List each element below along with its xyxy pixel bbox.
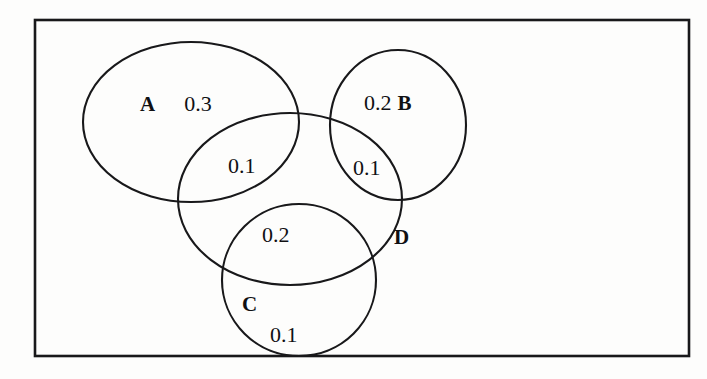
set-c-label: C	[242, 294, 257, 315]
region-value-b-only: 0.2	[364, 92, 392, 114]
region-value-c-only: 0.1	[270, 324, 298, 346]
set-d-label: D	[394, 227, 409, 248]
venn-diagram-canvas	[0, 0, 707, 379]
region-value-b-intersect-d: 0.1	[353, 157, 381, 179]
set-a-label: A	[140, 94, 155, 115]
region-value-a-only: 0.3	[184, 93, 212, 115]
region-label-b-only: 0.2B	[364, 92, 412, 114]
region-value-a-intersect-d: 0.1	[228, 155, 256, 177]
venn-diagram-figure: A0.3 0.2B 0.1 0.1 0.2 C 0.1 D	[0, 0, 707, 379]
region-value-c-intersect-d: 0.2	[262, 224, 290, 246]
set-b-label: B	[398, 93, 412, 114]
region-label-a-only: A0.3	[140, 93, 212, 115]
set-c-ellipse	[222, 204, 376, 356]
set-d-ellipse	[178, 113, 402, 285]
set-a-ellipse	[83, 42, 299, 202]
